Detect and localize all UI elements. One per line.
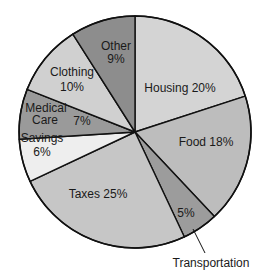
callout-line [193,229,205,253]
svg-text:5%: 5% [177,206,195,220]
svg-text:Care: Care [32,113,58,127]
svg-text:9%: 9% [107,52,125,66]
svg-text:Clothing: Clothing [50,65,94,79]
svg-text:Savings: Savings [21,131,64,145]
svg-text:10%: 10% [60,80,84,94]
slice-label-housing: Housing 20% [144,81,216,95]
svg-text:Housing 20%: Housing 20% [144,81,216,95]
pie-chart: Housing 20% Food 18% 5% Transportation T… [0,0,266,273]
svg-text:Other: Other [101,39,131,53]
svg-text:6%: 6% [33,145,51,159]
slice-label-food: Food 18% [179,135,234,149]
svg-text:7%: 7% [73,114,91,128]
svg-text:Transportation: Transportation [173,256,250,270]
slice-label-taxes: Taxes 25% [69,187,128,201]
svg-text:Food 18%: Food 18% [179,135,234,149]
svg-text:Taxes 25%: Taxes 25% [69,187,128,201]
